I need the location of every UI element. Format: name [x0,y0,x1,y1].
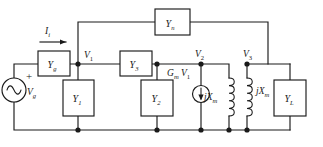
secondary-coil-label: jXm [254,86,269,98]
node-voltage-labels: V1 V2 V3 [84,49,253,62]
circuit-diagram: Yg Yn Y3 Y1 Y2 [0,0,323,147]
vg-label: Vg [27,87,37,99]
wire-secondary-coil-to-v3 [247,64,290,78]
node-label-v3: V3 [243,49,253,61]
node-dot-ground-v1 [75,127,80,132]
component-yg: Yg [38,51,70,76]
primary-coil-label: jXm [202,92,217,104]
node-label-v2: V2 [195,49,204,61]
node-dot-ground-source [198,127,203,132]
node-dot-y2-top [154,61,159,66]
component-y3: Y3 [120,51,152,76]
component-yn: Yn [155,9,190,35]
node-dot-v3 [244,61,249,66]
inductor-jxm-primary: jXm [202,78,234,116]
primary-coil-icon [229,78,234,116]
inductor-jxm-secondary: jXm [247,78,269,116]
node-dot-ground-y2 [154,127,159,132]
yg-box [38,51,70,76]
node-dot-v2 [198,61,203,66]
dependent-source-label: Gm V1 [167,68,190,80]
component-yl: YL [274,80,306,116]
node-dot-ground-secondary [244,127,249,132]
input-current-annotation: Ii [40,26,66,45]
node-label-v1: V1 [84,50,93,62]
node-dot-v1 [75,61,80,66]
y3-box [120,51,152,76]
yn-box [155,9,190,35]
vg-polarity-plus: + [26,70,32,82]
secondary-coil-icon [247,78,252,116]
input-current-label: Ii [44,26,50,38]
ac-source-vg: + Vg [2,70,37,102]
component-y2: Y2 [141,80,173,116]
node-dot-ground-primary [226,127,231,132]
wire-v2-to-primary-coil [201,64,229,78]
component-y1: Y1 [63,80,94,116]
input-current-arrow-head [60,39,66,44]
